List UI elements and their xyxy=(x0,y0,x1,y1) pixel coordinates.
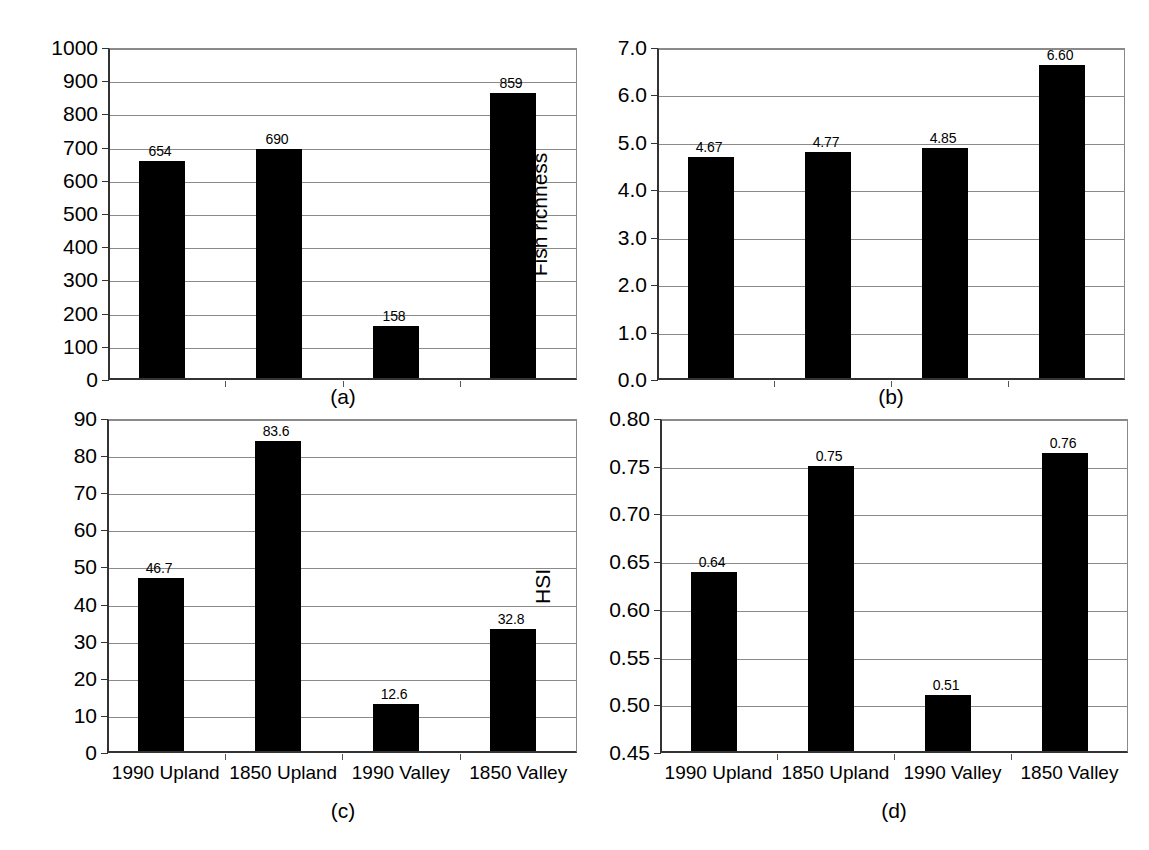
bar-value-label: 0.75 xyxy=(789,449,869,463)
plot-area-a xyxy=(108,48,577,380)
gridline xyxy=(110,215,576,216)
y-tick-label: 80 xyxy=(11,445,97,466)
y-tick-mark xyxy=(102,81,109,82)
gridline xyxy=(662,468,1127,469)
gridline xyxy=(110,82,576,83)
gridline xyxy=(659,49,1124,50)
bar xyxy=(139,161,185,378)
y-tick-label: 4.0 xyxy=(561,179,647,200)
gridline xyxy=(659,239,1124,240)
bar-value-label: 4.67 xyxy=(669,140,749,154)
panel-caption-b: (b) xyxy=(851,386,931,407)
y-tick-label: 60 xyxy=(11,519,97,540)
gridline xyxy=(662,420,1127,421)
y-tick-mark xyxy=(654,753,661,754)
bar xyxy=(1042,453,1088,751)
y-tick-mark xyxy=(102,148,109,149)
y-tick-label: 30 xyxy=(11,631,97,652)
y-tick-label: 50 xyxy=(11,556,97,577)
y-tick-label: 0.55 xyxy=(564,647,650,668)
y-tick-label: 0.75 xyxy=(564,456,650,477)
x-tick-label: 1850 Valley xyxy=(460,763,578,782)
gridline xyxy=(109,420,576,421)
y-tick-mark xyxy=(101,679,108,680)
y-tick-label: 900 xyxy=(12,70,98,91)
y-tick-mark xyxy=(651,190,658,191)
y-tick-label: 7.0 xyxy=(561,37,647,58)
gridline xyxy=(659,191,1124,192)
y-tick-label: 400 xyxy=(12,236,98,257)
y-tick-label: 1.0 xyxy=(561,322,647,343)
gridline xyxy=(109,457,576,458)
y-tick-mark xyxy=(651,333,658,334)
bar-value-label: 12.6 xyxy=(354,687,434,701)
y-tick-mark xyxy=(102,280,109,281)
gridline xyxy=(109,568,576,569)
bar-value-label: 46.7 xyxy=(119,561,199,575)
y-axis-title-b: Fish richness xyxy=(529,49,550,381)
gridline xyxy=(662,515,1127,516)
gridline xyxy=(109,606,576,607)
bar xyxy=(138,578,184,751)
x-tick-mark xyxy=(342,754,343,760)
y-tick-label: 0.0 xyxy=(561,369,647,390)
y-tick-label: 6.0 xyxy=(561,84,647,105)
panel-a: 01002003004005006007008009001000Cutthroa… xyxy=(0,0,1149,850)
bar-value-label: 654 xyxy=(120,144,200,158)
bar xyxy=(255,441,301,751)
x-tick-mark xyxy=(225,381,226,387)
bar xyxy=(373,326,419,378)
y-tick-mark xyxy=(101,419,108,420)
figure-root: 01002003004005006007008009001000Cutthroa… xyxy=(0,0,1149,850)
gridline xyxy=(109,643,576,644)
y-tick-mark xyxy=(101,605,108,606)
bar-value-label: 0.76 xyxy=(1023,436,1103,450)
bar xyxy=(922,148,968,378)
bar-value-label: 4.85 xyxy=(903,131,983,145)
y-tick-mark xyxy=(654,514,661,515)
y-tick-mark xyxy=(102,181,109,182)
y-tick-mark xyxy=(654,562,661,563)
bar xyxy=(808,466,854,751)
gridline xyxy=(662,659,1127,660)
bar-value-label: 4.77 xyxy=(786,135,866,149)
y-tick-label: 0.60 xyxy=(564,599,650,620)
y-tick-mark xyxy=(101,716,108,717)
x-tick-label: 1990 Upland xyxy=(660,763,777,782)
y-tick-mark xyxy=(101,493,108,494)
bar xyxy=(490,93,536,378)
bar xyxy=(256,149,302,378)
plot-area-b xyxy=(657,48,1125,380)
y-tick-mark xyxy=(651,285,658,286)
bar-value-label: 32.8 xyxy=(471,612,551,626)
x-tick-label: 1850 Upland xyxy=(225,763,343,782)
x-tick-mark xyxy=(1011,754,1012,760)
y-tick-mark xyxy=(101,456,108,457)
gridline xyxy=(659,286,1124,287)
gridline xyxy=(109,494,576,495)
y-tick-label: 0.65 xyxy=(564,551,650,572)
y-tick-label: 0.70 xyxy=(564,503,650,524)
plot-area-c xyxy=(107,419,577,753)
gridline xyxy=(109,680,576,681)
x-tick-mark xyxy=(460,381,461,387)
y-axis-title-d: HSI xyxy=(532,420,553,754)
y-tick-mark xyxy=(651,238,658,239)
y-tick-mark xyxy=(102,380,109,381)
panel-caption-a: (a) xyxy=(303,386,383,407)
y-tick-mark xyxy=(654,419,661,420)
gridline xyxy=(110,315,576,316)
y-tick-mark xyxy=(651,95,658,96)
x-tick-label: 1850 Upland xyxy=(777,763,894,782)
y-tick-mark xyxy=(654,705,661,706)
y-tick-label: 0.80 xyxy=(564,408,650,429)
gridline xyxy=(109,717,576,718)
y-tick-label: 100 xyxy=(12,336,98,357)
gridline xyxy=(662,563,1127,564)
y-tick-mark xyxy=(654,610,661,611)
y-tick-mark xyxy=(101,530,108,531)
bar-value-label: 859 xyxy=(471,76,551,90)
x-tick-label: 1990 Valley xyxy=(894,763,1011,782)
bar xyxy=(925,695,971,751)
y-tick-mark xyxy=(101,642,108,643)
